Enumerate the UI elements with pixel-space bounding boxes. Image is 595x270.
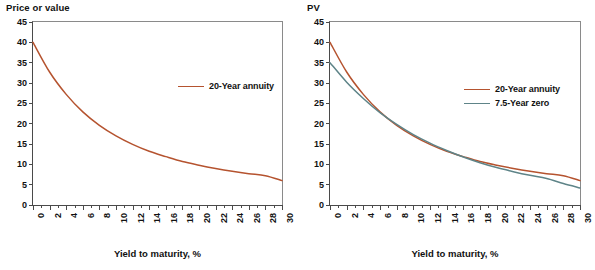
left-curve-layer (33, 22, 282, 205)
left-plot-area: 0510152025303540450246810121416182022242… (32, 21, 283, 206)
left-x-tickmark-25 (241, 205, 242, 208)
left-x-tick-label-6: 6 (87, 213, 96, 218)
left-x-tickmark-2 (50, 205, 51, 210)
left-x-tickmark-7 (91, 205, 92, 208)
right-x-tickmark-28 (563, 205, 564, 210)
left-x-tick-label-24: 24 (236, 213, 245, 223)
right-legend-row-1[interactable]: 20-Year annuity (464, 82, 560, 96)
right-x-tick-label-14: 14 (451, 213, 460, 223)
left-x-tick-label-22: 22 (220, 213, 229, 223)
right-x-tick-label-4: 4 (367, 213, 376, 218)
right-x-tickmark-27 (555, 205, 556, 208)
left-x-axis-title: Yield to maturity, % (32, 248, 283, 259)
left-y-axis-title: Price or value (6, 2, 70, 13)
right-x-tickmark-7 (388, 205, 389, 208)
right-legend-row-2[interactable]: 7.5-Year zero (464, 96, 560, 110)
left-y-tick-15: 15 (17, 140, 33, 149)
left-x-tickmark-16 (166, 205, 167, 210)
right-legend-label-2: 7.5-Year zero (495, 98, 549, 108)
left-series-line-1 (33, 42, 282, 180)
right-legend-swatch-1 (464, 89, 490, 90)
right-x-tick-label-16: 16 (467, 213, 476, 223)
left-x-tickmark-22 (216, 205, 217, 210)
left-x-tick-label-12: 12 (137, 213, 146, 223)
right-y-axis-title: PV (307, 2, 320, 13)
left-y-tick-25: 25 (17, 99, 33, 108)
left-y-tick-5: 5 (22, 180, 33, 189)
right-x-tick-label-30: 30 (584, 213, 593, 223)
left-x-tickmark-23 (224, 205, 225, 208)
left-x-tickmark-28 (265, 205, 266, 210)
right-x-tickmark-4 (363, 205, 364, 210)
left-y-tick-20: 20 (17, 119, 33, 128)
left-legend-row-1[interactable]: 20-Year annuity (178, 79, 274, 93)
right-x-tickmark-2 (347, 205, 348, 210)
left-x-tickmark-24 (232, 205, 233, 210)
right-y-tick-30: 30 (314, 79, 330, 88)
right-x-axis-title: Yield to maturity, % (329, 248, 581, 259)
left-legend: 20-Year annuity (178, 79, 274, 93)
right-x-tick-label-8: 8 (401, 213, 410, 218)
right-x-tick-label-2: 2 (351, 213, 360, 218)
right-x-tick-label-6: 6 (384, 213, 393, 218)
left-x-tick-label-10: 10 (120, 213, 129, 223)
left-y-tick-10: 10 (17, 160, 33, 169)
left-x-tick-label-4: 4 (70, 213, 79, 218)
right-series-line-1 (330, 42, 580, 180)
right-x-tickmark-25 (538, 205, 539, 208)
left-x-tick-label-8: 8 (103, 213, 112, 218)
right-y-tick-25: 25 (314, 99, 330, 108)
right-y-tick-40: 40 (314, 38, 330, 47)
right-x-tickmark-26 (547, 205, 548, 210)
right-x-tick-label-12: 12 (434, 213, 443, 223)
right-x-tickmark-29 (572, 205, 573, 208)
right-x-tickmark-8 (397, 205, 398, 210)
right-x-tickmark-19 (488, 205, 489, 208)
right-x-tickmark-15 (455, 205, 456, 208)
left-x-tickmark-12 (133, 205, 134, 210)
left-x-tick-label-18: 18 (186, 213, 195, 223)
left-x-tick-label-28: 28 (269, 213, 278, 223)
left-x-tick-label-30: 30 (286, 213, 295, 223)
left-x-tickmark-27 (257, 205, 258, 208)
chart-panel-left: Price or value 0510152025303540450246810… (0, 0, 297, 270)
left-x-tickmark-8 (99, 205, 100, 210)
right-x-tick-label-0: 0 (334, 213, 343, 218)
left-x-tickmark-29 (274, 205, 275, 208)
left-x-tickmark-18 (182, 205, 183, 210)
left-y-tick-0: 0 (22, 201, 33, 210)
right-x-tick-label-10: 10 (417, 213, 426, 223)
right-y-tick-35: 35 (314, 58, 330, 67)
left-x-tick-label-20: 20 (203, 213, 212, 223)
right-y-tick-10: 10 (314, 160, 330, 169)
right-curve-layer (330, 22, 580, 205)
right-x-tickmark-6 (380, 205, 381, 210)
left-x-tick-label-16: 16 (170, 213, 179, 223)
right-x-tickmark-18 (480, 205, 481, 210)
left-legend-label-1: 20-Year annuity (209, 81, 274, 91)
right-x-tickmark-30 (580, 205, 581, 210)
right-x-tickmark-13 (438, 205, 439, 208)
left-x-tickmark-3 (58, 205, 59, 208)
right-x-tickmark-1 (338, 205, 339, 208)
left-x-tick-label-14: 14 (153, 213, 162, 223)
left-x-tick-label-26: 26 (253, 213, 262, 223)
left-x-tick-label-0: 0 (37, 213, 46, 218)
chart-panels: Price or value 0510152025303540450246810… (0, 0, 595, 270)
left-x-tickmark-13 (141, 205, 142, 208)
right-x-tickmark-11 (422, 205, 423, 208)
left-x-tickmark-17 (174, 205, 175, 208)
left-x-tickmark-26 (249, 205, 250, 210)
right-x-tickmark-0 (330, 205, 331, 210)
right-legend-swatch-2 (464, 103, 490, 104)
right-x-tickmark-21 (505, 205, 506, 208)
right-legend: 20-Year annuity7.5-Year zero (464, 82, 560, 110)
right-x-tick-label-20: 20 (501, 213, 510, 223)
left-y-tick-35: 35 (17, 58, 33, 67)
left-x-tickmark-11 (124, 205, 125, 208)
right-plot-area: 0510152025303540450246810121416182022242… (329, 21, 581, 206)
left-x-tickmark-30 (282, 205, 283, 210)
right-x-tick-label-18: 18 (484, 213, 493, 223)
right-x-tickmark-12 (430, 205, 431, 210)
left-y-tick-40: 40 (17, 38, 33, 47)
